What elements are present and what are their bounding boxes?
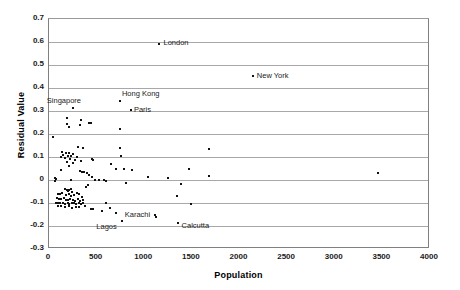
data-point	[90, 122, 92, 124]
data-point	[180, 183, 182, 185]
point-annotation: Hong Kong	[122, 90, 160, 98]
data-point	[60, 169, 62, 171]
data-point	[119, 128, 121, 130]
data-point	[119, 100, 121, 102]
data-point	[54, 180, 56, 182]
data-point	[64, 206, 66, 208]
data-point	[61, 192, 63, 194]
data-point	[57, 205, 59, 207]
point-annotation: Lagos	[96, 223, 116, 231]
data-point	[72, 162, 74, 164]
data-point	[69, 158, 71, 160]
data-point	[73, 194, 75, 196]
scatter-chart-figure: Residual Value Population -0.3-0.2-0.100…	[0, 0, 460, 290]
data-point	[72, 153, 74, 155]
data-point	[115, 212, 117, 214]
x-axis-title: Population	[48, 270, 429, 280]
data-point	[147, 176, 149, 178]
data-point	[70, 195, 72, 197]
point-annotation: Paris	[134, 106, 151, 114]
data-point	[66, 117, 68, 119]
gridline	[49, 111, 428, 112]
data-point	[60, 205, 62, 207]
data-point	[92, 208, 94, 210]
point-annotation: London	[163, 39, 188, 47]
point-annotation: Karachi	[125, 211, 150, 219]
data-point	[64, 157, 66, 159]
data-point	[68, 165, 70, 167]
data-point	[85, 186, 87, 188]
data-point	[79, 124, 81, 126]
data-point	[82, 147, 84, 149]
y-tick-label: -0.1	[2, 198, 44, 206]
data-point	[88, 174, 90, 176]
data-point	[84, 205, 86, 207]
y-tick-label: 0.5	[2, 60, 44, 68]
data-point	[130, 109, 132, 111]
data-point	[60, 156, 62, 158]
data-point	[91, 176, 93, 178]
y-tick-label: 0	[2, 175, 44, 183]
point-annotation: New York	[257, 72, 289, 80]
data-point	[70, 155, 72, 157]
data-point	[105, 202, 107, 204]
y-tick-label: 0.2	[2, 129, 44, 137]
data-point	[190, 203, 192, 205]
gridline	[49, 88, 428, 89]
data-point	[131, 169, 133, 171]
x-tick-label: 1000	[121, 253, 165, 261]
data-point	[71, 207, 73, 209]
gridline	[49, 157, 428, 158]
data-point	[52, 136, 54, 138]
data-point	[98, 179, 100, 181]
data-point	[176, 195, 178, 197]
data-point	[92, 159, 94, 161]
data-point	[82, 199, 84, 201]
x-tick-label: 500	[74, 253, 118, 261]
data-point	[61, 151, 63, 153]
y-tick-label: 0.3	[2, 106, 44, 114]
data-point	[120, 155, 122, 157]
y-tick-label: 0.1	[2, 152, 44, 160]
x-tick-label: 3500	[359, 253, 403, 261]
data-point	[68, 193, 70, 195]
gridline	[49, 65, 428, 66]
data-point	[155, 216, 157, 218]
data-point	[70, 188, 72, 190]
data-point	[115, 168, 117, 170]
data-point	[82, 202, 84, 204]
point-annotation: Calcutta	[182, 222, 210, 230]
y-axis-tick-labels: -0.3-0.2-0.100.10.20.30.40.50.60.7	[0, 18, 44, 248]
data-point	[65, 152, 67, 154]
data-point	[78, 206, 80, 208]
data-point	[123, 168, 125, 170]
x-tick-label: 3000	[312, 253, 356, 261]
data-point	[70, 179, 72, 181]
data-point	[62, 154, 64, 156]
data-point	[81, 196, 83, 198]
y-tick-label: 0.4	[2, 83, 44, 91]
data-point	[167, 177, 169, 179]
data-point	[72, 107, 74, 109]
data-point	[78, 193, 80, 195]
x-tick-label: 4000	[407, 253, 451, 261]
data-point	[67, 155, 69, 157]
data-point	[66, 161, 68, 163]
data-point	[105, 180, 107, 182]
data-point	[188, 168, 190, 170]
data-point	[68, 152, 70, 154]
data-point	[74, 159, 76, 161]
data-point	[121, 220, 123, 222]
data-point	[109, 207, 111, 209]
data-point	[68, 126, 70, 128]
data-point	[125, 182, 127, 184]
data-point	[101, 210, 103, 212]
y-tick-label: -0.3	[2, 244, 44, 252]
data-point	[158, 43, 160, 45]
y-tick-label: -0.2	[2, 221, 44, 229]
data-point	[208, 148, 210, 150]
data-point	[80, 119, 82, 121]
y-tick-label: 0.7	[2, 14, 44, 22]
data-point	[94, 179, 96, 181]
gridline	[49, 42, 428, 43]
